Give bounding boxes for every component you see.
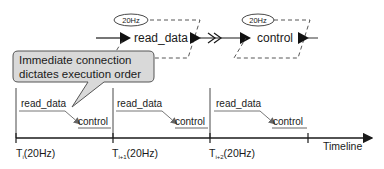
slot-2-transition-arrow [116, 111, 177, 124]
rate-read-data: 20Hz [122, 16, 140, 25]
timeline-slots: read_data control read_data control read… [16, 88, 307, 138]
output-port-icon [298, 32, 309, 44]
block-label-control: control [257, 31, 293, 45]
callout-line-2: dictates execution order [19, 68, 141, 80]
tick-label-2: Ti+1(20Hz) [112, 147, 158, 160]
rate-control: 20Hz [249, 16, 267, 25]
timeline-slot-2: read_data control [116, 98, 208, 128]
timeline-axis: Ti(20Hz) Ti+1(20Hz) Ti+2(20Hz) Timeline [16, 133, 372, 160]
slot-3-transition-arrow [214, 111, 275, 124]
slot-1-control: control [78, 116, 108, 127]
timeline-slot-3: read_data control [214, 98, 307, 128]
tick-label-3: Ti+2(20Hz) [209, 147, 255, 160]
block-label-read-data: read_data [134, 31, 188, 45]
slot-1-transition-arrow [19, 111, 80, 124]
slot-3-read-data: read_data [216, 98, 261, 109]
execution-order-diagram: 20Hz read_data 20Hz control Immediate co… [0, 0, 384, 169]
timeline-axis-label: Timeline [323, 140, 362, 152]
slot-3-control: control [273, 116, 303, 127]
tick-label-1: Ti(20Hz) [16, 147, 55, 160]
slot-2-read-data: read_data [117, 98, 162, 109]
callout-line-1: Immediate connection [19, 54, 132, 66]
timeline-slot-1: read_data control [19, 98, 111, 128]
slot-1-read-data: read_data [21, 98, 66, 109]
slot-2-control: control [175, 116, 205, 127]
diagram-canvas: 20Hz read_data 20Hz control Immediate co… [0, 0, 384, 169]
